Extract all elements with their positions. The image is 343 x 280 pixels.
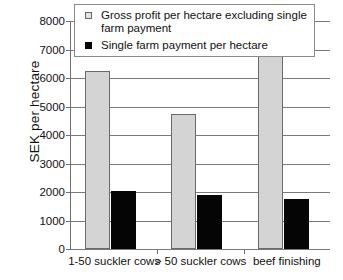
bar-gross-profit bbox=[171, 114, 196, 249]
legend-label-gross-profit: Gross profit per hectare excluding singl… bbox=[101, 9, 308, 35]
y-axis-tick-label: 6000 bbox=[39, 72, 65, 84]
y-axis-tick-label: 0 bbox=[59, 243, 65, 255]
y-axis-tick bbox=[66, 249, 71, 250]
y-axis-tick-label: 5000 bbox=[39, 101, 65, 113]
gridline: 0 bbox=[71, 249, 330, 250]
x-axis-label: > 50 suckler cows bbox=[155, 255, 247, 267]
bar-single-farm-payment bbox=[111, 191, 136, 249]
single-farm-payment-swatch-icon bbox=[85, 42, 92, 49]
x-axis-label: 1-50 suckler cows bbox=[68, 255, 160, 267]
y-axis-tick-label: 7000 bbox=[39, 44, 65, 56]
legend-item-gross-profit: Gross profit per hectare excluding singl… bbox=[81, 9, 308, 35]
category-separator-tick bbox=[157, 249, 158, 254]
legend-label-single-farm-payment: Single farm payment per hectare bbox=[101, 39, 268, 52]
y-axis-tick-label: 2000 bbox=[39, 186, 65, 198]
y-axis-tick-label: 4000 bbox=[39, 129, 65, 141]
y-axis-tick-label: 3000 bbox=[39, 158, 65, 170]
x-axis-label: beef finishing bbox=[253, 255, 321, 267]
chart-legend: Gross profit per hectare excluding singl… bbox=[74, 4, 315, 57]
bar-single-farm-payment bbox=[197, 195, 222, 249]
y-axis-tick-label: 8000 bbox=[39, 15, 65, 27]
x-axis-labels: 1-50 suckler cows> 50 suckler cowsbeef f… bbox=[71, 255, 330, 275]
gross-profit-swatch-icon bbox=[85, 12, 92, 19]
bar-gross-profit bbox=[258, 36, 283, 249]
bar-gross-profit bbox=[85, 71, 110, 249]
bar-single-farm-payment bbox=[284, 199, 309, 249]
y-axis-tick-label: 1000 bbox=[39, 215, 65, 227]
category-separator-tick bbox=[244, 249, 245, 254]
legend-item-single-farm-payment: Single farm payment per hectare bbox=[81, 39, 308, 52]
bar-chart: SEK per hectare 800070006000500040003000… bbox=[0, 0, 343, 280]
